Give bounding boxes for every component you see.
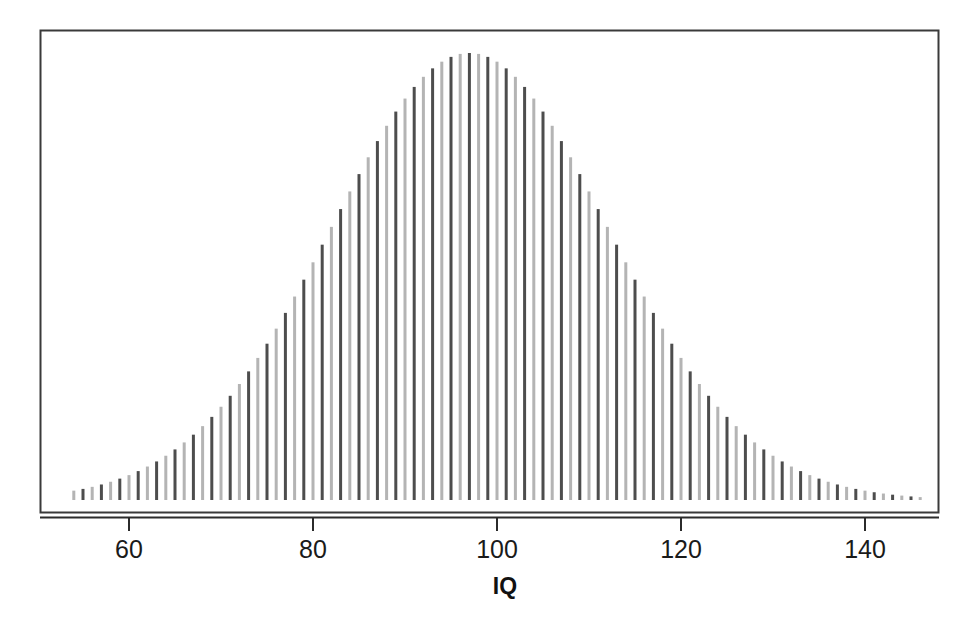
spike-bar	[82, 489, 85, 500]
spike-bar	[109, 482, 112, 500]
spike-bar	[808, 475, 811, 500]
spike-bar	[128, 475, 131, 500]
spike-bar	[689, 371, 692, 500]
spike-bar	[891, 495, 894, 500]
spike-bar	[910, 496, 913, 500]
spike-bar	[192, 435, 195, 500]
spike-bar	[118, 479, 121, 500]
x-axis-tick-label: 140	[844, 535, 886, 563]
spike-bar	[864, 491, 867, 500]
spike-bar	[155, 461, 158, 500]
spike-bar	[210, 417, 213, 500]
spike-bar	[440, 62, 443, 500]
spike-bar	[229, 396, 232, 500]
x-axis-title: IQ	[493, 573, 517, 599]
spike-bar	[873, 492, 876, 500]
spike-bar	[670, 344, 673, 500]
spike-bar	[459, 54, 462, 500]
spike-bar	[146, 467, 149, 500]
spike-bar	[569, 157, 572, 500]
spike-bar	[376, 141, 379, 500]
spike-bar	[845, 487, 848, 500]
spike-bar	[652, 313, 655, 500]
spike-bar	[836, 484, 839, 500]
spike-bar	[394, 112, 397, 500]
spike-bar	[431, 68, 434, 500]
spike-bar	[514, 77, 517, 500]
x-axis-tick-label: 60	[115, 535, 143, 563]
spike-bar	[404, 99, 407, 500]
spike-bar	[137, 471, 140, 500]
spike-bar	[624, 262, 627, 500]
spike-bar	[661, 329, 664, 500]
spike-bar	[744, 435, 747, 500]
spike-bar	[358, 174, 361, 500]
spike-bar	[339, 209, 342, 500]
spike-bar	[367, 157, 370, 500]
spike-bar	[183, 442, 186, 500]
spike-bar	[588, 191, 591, 500]
spike-bar	[422, 77, 425, 500]
spike-bar	[468, 53, 471, 500]
spike-bar	[72, 491, 75, 500]
spike-bar	[450, 57, 453, 500]
spike-bar	[716, 407, 719, 500]
spike-bar	[680, 358, 683, 500]
spike-bar	[707, 396, 710, 500]
spike-bar	[238, 384, 241, 500]
spike-bar	[726, 417, 729, 500]
spike-bar	[781, 461, 784, 500]
spike-bar	[900, 496, 903, 500]
spike-bar	[321, 245, 324, 500]
spike-bar	[762, 449, 765, 500]
spike-bar	[799, 471, 802, 500]
spike-bar	[753, 442, 756, 500]
spike-bar	[790, 467, 793, 500]
spike-bar	[164, 456, 167, 500]
spike-bar	[735, 426, 738, 500]
spike-bar	[772, 456, 775, 500]
spike-bar	[643, 297, 646, 500]
spike-bar	[247, 371, 250, 500]
spike-bar	[302, 280, 305, 500]
spike-bar	[330, 227, 333, 500]
spike-bar	[385, 126, 388, 500]
spike-bar	[256, 358, 259, 500]
spike-bar	[505, 68, 508, 500]
spike-bar	[174, 449, 177, 500]
spike-bar	[827, 482, 830, 500]
spike-bar	[560, 141, 563, 500]
spike-bar	[312, 262, 315, 500]
spike-bar	[348, 191, 351, 500]
spike-bar	[634, 280, 637, 500]
spike-bar	[201, 426, 204, 500]
spike-bar	[91, 487, 94, 500]
spike-bar	[551, 126, 554, 500]
spike-bar	[284, 313, 287, 500]
spike-bar	[413, 87, 416, 500]
spike-bar	[919, 497, 922, 500]
x-axis-tick-label: 80	[299, 535, 327, 563]
spike-bar	[523, 87, 526, 500]
spike-bar	[266, 344, 269, 500]
spike-bar	[882, 494, 885, 500]
spike-bar	[532, 99, 535, 500]
x-axis-tick-label: 120	[660, 535, 702, 563]
x-axis-tick-label: 100	[476, 535, 518, 563]
spike-bar	[542, 112, 545, 500]
iq-distribution-chart: 6080100120140 IQ	[0, 0, 967, 629]
spike-bar	[496, 62, 499, 500]
spike-bar	[854, 489, 857, 500]
spike-bar	[220, 407, 223, 500]
spike-bar	[100, 484, 103, 500]
spike-bar	[818, 479, 821, 500]
chart-figure: 6080100120140 IQ	[0, 0, 967, 629]
spike-bar	[293, 297, 296, 500]
spike-bar	[275, 329, 278, 500]
spike-bar	[698, 384, 701, 500]
spike-bar	[597, 209, 600, 500]
spike-bar	[486, 57, 489, 500]
spike-bar	[477, 54, 480, 500]
spike-bar	[606, 227, 609, 500]
spike-bar	[615, 245, 618, 500]
